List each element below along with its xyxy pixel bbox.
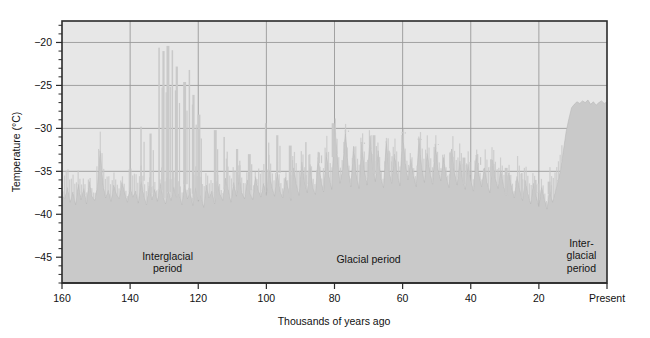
- temperature-spike: [90, 178, 91, 186]
- temperature-spike: [417, 166, 418, 172]
- temperature-spike: [423, 159, 424, 180]
- temperature-spike: [343, 142, 344, 153]
- temperature-spike: [69, 179, 70, 199]
- temperature-spike: [170, 179, 171, 197]
- temperature-spike: [251, 164, 252, 190]
- temperature-spike: [233, 167, 234, 186]
- temperature-spike: [399, 167, 400, 183]
- x-tick-label: 160: [53, 292, 71, 304]
- temperature-spike: [176, 67, 178, 197]
- temperature-spike: [316, 170, 317, 178]
- temperature-spike: [83, 178, 84, 190]
- temperature-spike: [304, 167, 305, 182]
- temperature-spike: [309, 154, 310, 166]
- temperature-spike: [510, 175, 511, 183]
- temperature-spike: [81, 184, 82, 197]
- temperature-spike: [532, 173, 533, 187]
- temperature-spike: [319, 167, 320, 173]
- temperature-spike: [411, 157, 412, 166]
- temperature-spike: [355, 146, 356, 169]
- temperature-spike: [214, 192, 215, 203]
- temperature-spike: [422, 149, 423, 171]
- temperature-spike: [359, 165, 360, 186]
- temperature-spike: [270, 164, 271, 180]
- y-tick-label: −40: [34, 208, 52, 220]
- temperature-spike: [388, 138, 389, 161]
- temperature-spike: [217, 149, 218, 198]
- x-tick-label: 20: [533, 292, 545, 304]
- x-tick-label: 120: [189, 292, 207, 304]
- temperature-spike: [365, 162, 366, 179]
- temperature-spike: [457, 157, 458, 177]
- temperature-spike: [512, 184, 513, 191]
- temperature-spike: [158, 190, 159, 196]
- temperature-spike: [527, 176, 528, 193]
- temperature-spike: [166, 178, 167, 198]
- temperature-spike: [292, 156, 293, 178]
- temperature-spike: [350, 178, 351, 185]
- annotation-line: period: [567, 262, 596, 274]
- temperature-spike: [381, 172, 382, 180]
- temperature-spike: [88, 179, 89, 188]
- temperature-spike: [117, 185, 118, 196]
- temperature-spike: [519, 166, 520, 188]
- temperature-spike: [531, 185, 532, 200]
- temperature-spike: [551, 176, 552, 198]
- temperature-spike: [384, 161, 385, 167]
- temperature-spike: [554, 173, 555, 193]
- temperature-spike: [488, 167, 489, 188]
- temperature-spike: [357, 159, 358, 181]
- temperature-spike: [548, 195, 549, 200]
- temperature-spike: [130, 169, 131, 191]
- temperature-spike: [537, 192, 538, 203]
- temperature-spike: [132, 175, 133, 196]
- temperature-spike: [210, 180, 211, 193]
- temperature-spike: [173, 172, 174, 188]
- x-tick-label: 140: [121, 292, 139, 304]
- temperature-spike: [515, 181, 516, 186]
- temperature-spike: [287, 180, 288, 186]
- annotation-glacial-middle: Glacial period: [336, 253, 400, 265]
- annotation-line: Glacial period: [336, 253, 400, 265]
- temperature-spike: [275, 173, 276, 186]
- temperature-spike: [79, 179, 80, 193]
- temperature-spike: [517, 156, 518, 179]
- temperature-spike: [154, 182, 155, 190]
- annotation-line: Interglacial: [142, 250, 193, 262]
- temperature-spike: [272, 173, 273, 188]
- temperature-spike: [369, 130, 370, 145]
- temperature-spike: [196, 125, 197, 202]
- temperature-spike: [405, 149, 406, 162]
- temperature-spike: [529, 183, 530, 199]
- temperature-spike: [497, 169, 498, 185]
- temperature-spike: [478, 163, 479, 171]
- temperature-spike: [66, 170, 67, 192]
- temperature-spike: [328, 152, 329, 172]
- temperature-spike: [360, 138, 361, 158]
- temperature-spike: [181, 192, 182, 203]
- temperature-spike: [544, 194, 545, 201]
- temperature-spike: [398, 162, 399, 179]
- y-tick-label: −30: [34, 122, 52, 134]
- temperature-spike: [348, 131, 349, 132]
- temperature-spike: [219, 184, 220, 192]
- temperature-spike: [185, 180, 186, 189]
- temperature-spike: [560, 155, 561, 172]
- temperature-spike: [434, 147, 435, 162]
- chart-canvas: −20−25−30−35−40−45 16014012010080604020P…: [0, 0, 650, 338]
- temperature-spike: [321, 155, 322, 163]
- annotation-interglacial-right: Inter-glacialperiod: [567, 237, 597, 274]
- temperature-spike: [342, 160, 343, 172]
- temperature-spike: [207, 176, 208, 191]
- temperature-spike: [112, 180, 113, 194]
- temperature-spike: [202, 184, 203, 202]
- temperature-spike: [451, 151, 452, 156]
- temperature-spike: [124, 184, 125, 191]
- temperature-spike: [505, 182, 506, 193]
- temperature-spike: [464, 171, 465, 187]
- temperature-spike: [250, 185, 251, 194]
- temperature-spike: [267, 170, 268, 188]
- temperature-spike: [452, 136, 453, 159]
- temperature-spike: [229, 176, 230, 197]
- temperature-spike: [125, 191, 126, 197]
